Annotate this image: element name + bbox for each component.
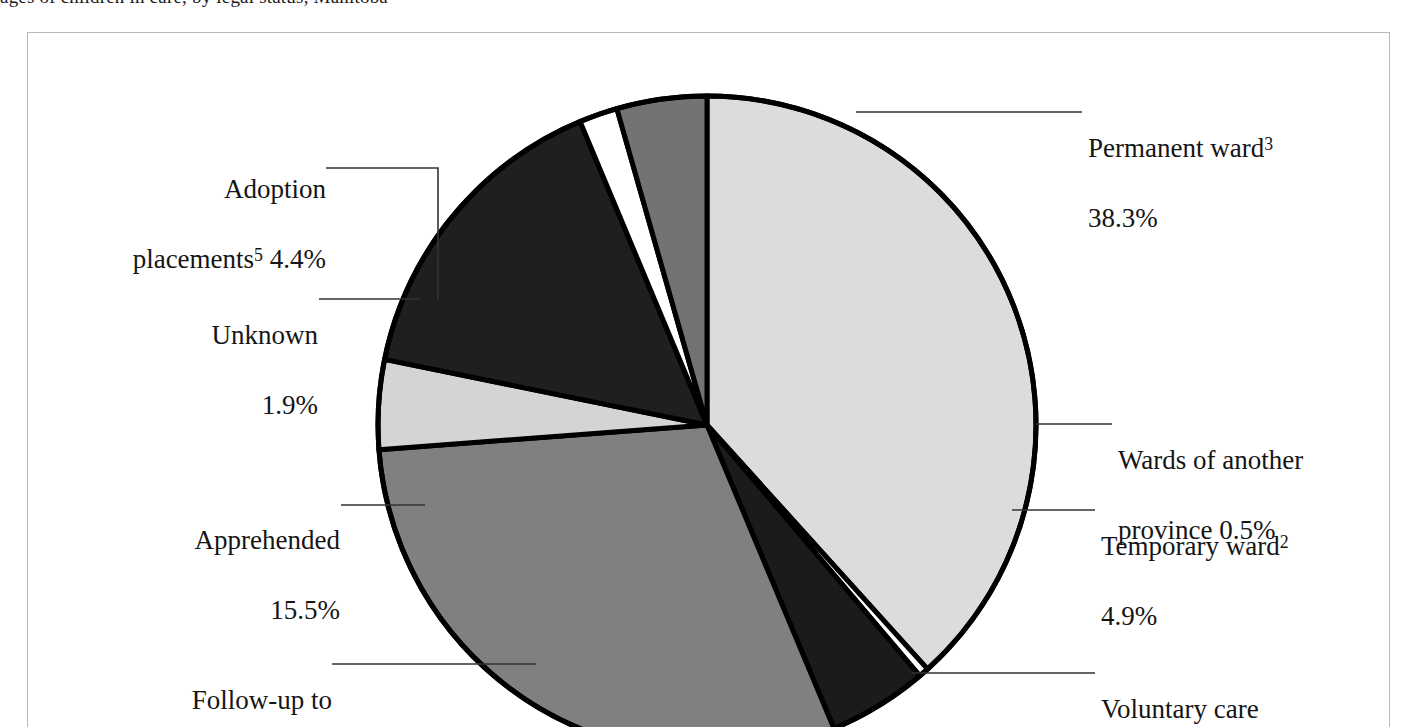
label-adoption-placements-line2: placements5 4.4% (18, 242, 326, 277)
label-wards-another-province-line1: Wards of another (1118, 443, 1417, 478)
footnote-marker-permanent-ward: 3 (1264, 134, 1273, 154)
footnote-marker-temporary-ward: 2 (1280, 532, 1289, 552)
label-temporary-ward-line2: 4.9% (1101, 599, 1401, 634)
label-temporary-ward: Temporary ward2 4.9% (1101, 494, 1401, 669)
label-unknown-line1: Unknown (40, 318, 318, 353)
label-permanent-ward: Permanent ward3 38.3% (1088, 96, 1408, 271)
label-permanent-ward-line2: 38.3% (1088, 201, 1408, 236)
label-adoption-placements-line1: Adoption (18, 172, 326, 207)
label-temporary-ward-line1: Temporary ward2 (1101, 529, 1401, 564)
label-voluntary-care-agreement: Voluntary care agreement4 30.1% (1101, 657, 1411, 727)
figure-caption-cut: ages of children in care, by legal statu… (0, 0, 1417, 8)
label-permanent-ward-line1: Permanent ward3 (1088, 131, 1408, 166)
label-apprehended-line2: 15.5% (40, 593, 340, 628)
label-voluntary-care-agreement-line1: Voluntary care (1101, 692, 1411, 727)
pie-chart-figure: ages of children in care, by legal statu… (0, 0, 1417, 727)
label-unknown-line2: 1.9% (40, 388, 318, 423)
label-follow-up-line1: Follow-up to (36, 683, 332, 718)
label-apprehended-line1: Apprehended (40, 523, 340, 558)
footnote-marker-adoption: 5 (254, 245, 263, 265)
label-apprehended: Apprehended 15.5% (40, 488, 340, 663)
label-adoption-placements: Adoption placements5 4.4% (18, 137, 326, 312)
